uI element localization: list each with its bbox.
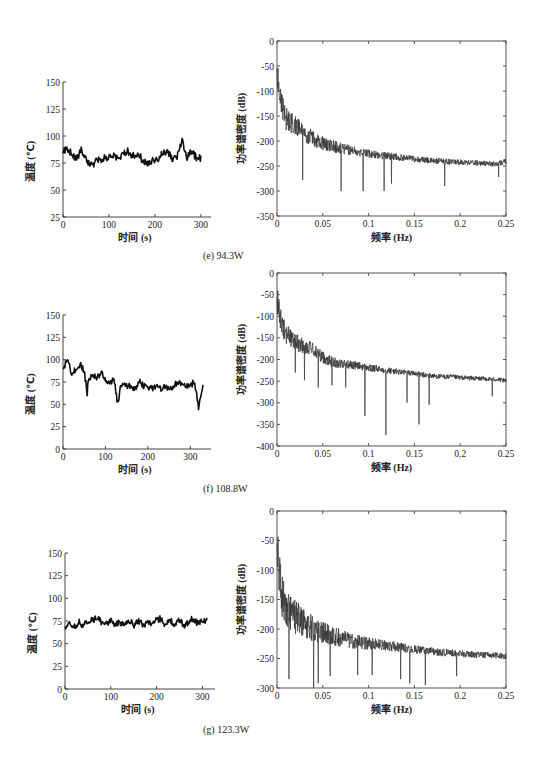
x-tick-label: 200 <box>149 692 164 702</box>
plot-frame <box>277 511 506 688</box>
y-tick-label: -150 <box>257 333 275 343</box>
figure-canvas: 2550751001251500100200300时间 (s)温度 (℃)0-5… <box>0 0 542 773</box>
y-axis-label: 温度 (℃) <box>24 373 37 414</box>
y-tick-label: -250 <box>257 162 275 172</box>
y-tick-label: 0 <box>269 37 274 47</box>
y-tick-label: 25 <box>51 422 61 432</box>
temperature-plot: 02550751001251500100200300时间 (s)温度 (℃) <box>24 311 211 477</box>
x-tick-label: 0.05 <box>314 219 331 229</box>
y-tick-label: 125 <box>46 105 61 115</box>
y-tick-label: 0 <box>269 507 274 517</box>
y-tick-label: 75 <box>51 378 61 388</box>
y-tick-label: 0 <box>55 445 60 455</box>
y-tick-label: -250 <box>257 377 275 387</box>
y-tick-label: -150 <box>257 595 275 605</box>
y-tick-label: -200 <box>257 625 275 635</box>
y-tick-label: 100 <box>48 594 63 604</box>
x-tick-label: 100 <box>104 692 119 702</box>
x-axis-label: 频率 (Hz) <box>371 703 412 716</box>
y-tick-label: 150 <box>48 549 63 559</box>
y-tick-label: -350 <box>257 212 275 222</box>
x-tick-label: 0.2 <box>454 219 466 229</box>
psd-line <box>277 537 506 688</box>
x-tick-label: 0.1 <box>363 449 375 459</box>
x-tick-label: 100 <box>102 220 117 230</box>
x-tick-label: 0 <box>61 452 66 462</box>
x-tick-label: 0 <box>275 219 280 229</box>
y-tick-label: -200 <box>257 137 275 147</box>
x-tick-label: 0.2 <box>454 691 466 701</box>
y-tick-label: 75 <box>51 159 61 169</box>
y-tick-label: 25 <box>53 662 63 672</box>
x-tick-label: 200 <box>141 452 156 462</box>
x-axis-label: 时间 (s) <box>118 231 151 244</box>
x-tick-label: 0.15 <box>406 449 423 459</box>
x-tick-label: 300 <box>194 220 209 230</box>
x-tick-label: 0.15 <box>406 219 423 229</box>
y-axis-label: 功率谱密度 (dB) <box>235 324 248 395</box>
x-tick-label: 300 <box>183 452 198 462</box>
x-tick-label: 0 <box>61 220 66 230</box>
y-tick-label: -150 <box>257 112 275 122</box>
y-tick-label: -50 <box>261 62 274 72</box>
x-tick-label: 0.05 <box>314 691 331 701</box>
y-tick-label: 100 <box>46 355 61 365</box>
x-tick-label: 0.1 <box>363 219 375 229</box>
x-tick-label: 0.2 <box>454 449 466 459</box>
panel-g: 02550751001251500100200300时间 (s)温度 (℃)0-… <box>26 507 515 737</box>
y-tick-label: -300 <box>257 398 275 408</box>
y-tick-label: -350 <box>257 420 275 430</box>
plot-frame <box>277 41 506 216</box>
x-tick-label: 0.15 <box>406 691 423 701</box>
y-tick-label: -100 <box>257 312 275 322</box>
panel-e: 2550751001251500100200300时间 (s)温度 (℃)0-5… <box>24 37 515 263</box>
y-tick-label: 0 <box>57 685 62 695</box>
temperature-line <box>65 616 207 629</box>
y-tick-label: 50 <box>53 639 63 649</box>
psd-plot: 0-50-100-150-200-250-30000.050.10.150.20… <box>235 507 515 717</box>
y-tick-label: 50 <box>51 186 61 196</box>
plot-frame <box>277 273 506 446</box>
y-tick-label: 150 <box>46 311 61 321</box>
y-tick-label: -50 <box>261 290 274 300</box>
y-tick-label: 50 <box>51 400 61 410</box>
x-tick-label: 200 <box>148 220 163 230</box>
y-tick-label: -100 <box>257 566 275 576</box>
y-tick-label: 0 <box>269 269 274 279</box>
y-axis-label: 功率谱密度 (dB) <box>235 564 248 635</box>
temperature-line <box>63 360 203 410</box>
y-tick-label: 125 <box>46 333 61 343</box>
temperature-plot: 02550751001251500100200300时间 (s)温度 (℃) <box>26 549 215 717</box>
y-tick-label: -50 <box>261 536 274 546</box>
psd-line <box>277 68 506 191</box>
y-tick-label: -100 <box>257 87 275 97</box>
x-tick-label: 0 <box>275 449 280 459</box>
x-tick-label: 0.25 <box>498 449 515 459</box>
y-tick-label: 125 <box>48 571 63 581</box>
panel-caption: (g) 123.3W <box>203 724 250 736</box>
x-tick-label: 0.1 <box>363 691 375 701</box>
panel-caption: (e) 94.3W <box>203 250 244 262</box>
x-tick-label: 100 <box>98 452 113 462</box>
psd-line <box>277 290 506 435</box>
x-tick-label: 0 <box>275 691 280 701</box>
psd-plot: 0-50-100-150-200-250-300-35000.050.10.15… <box>235 37 515 245</box>
y-tick-label: 150 <box>46 78 61 88</box>
x-axis-label: 时间 (s) <box>121 703 154 716</box>
y-tick-label: -250 <box>257 654 275 664</box>
y-tick-label: 100 <box>46 132 61 142</box>
psd-plot: 0-50-100-150-200-250-300-350-40000.050.1… <box>235 269 515 475</box>
x-tick-label: 0 <box>63 692 68 702</box>
x-axis-label: 频率 (Hz) <box>371 461 412 474</box>
x-tick-label: 300 <box>195 692 210 702</box>
y-axis-label: 温度 (℃) <box>24 141 37 182</box>
y-tick-label: -300 <box>257 684 275 694</box>
x-tick-label: 0.25 <box>498 691 515 701</box>
x-tick-label: 0.05 <box>314 449 331 459</box>
y-tick-label: 25 <box>51 213 61 223</box>
x-tick-label: 0.25 <box>498 219 515 229</box>
temperature-line <box>63 138 201 167</box>
panel-caption: (f) 108.8W <box>203 483 248 495</box>
temperature-plot: 2550751001251500100200300时间 (s)温度 (℃) <box>24 78 211 245</box>
y-tick-label: -200 <box>257 355 275 365</box>
